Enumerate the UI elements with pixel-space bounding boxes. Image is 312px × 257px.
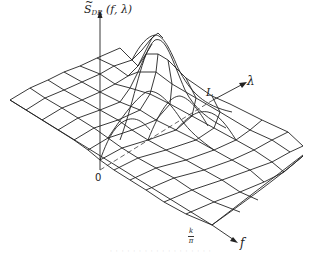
lambda-marker-l: L [206,86,213,99]
function-args: (f, λ) [106,3,132,16]
f-axis-label: f [240,236,244,250]
lambda-axis-label: λ [247,74,255,88]
surface-plot-svg [0,0,312,257]
surface-plot-figure: ~SDR (f, λ) λ L 0 f kπ · · · · · · · · ·… [0,0,312,257]
subscript-dr: DR [92,9,103,17]
tilde-accent: ~ [85,0,93,7]
surface-front-right-edge [212,155,303,225]
fraction-numerator: k [189,227,193,235]
f-axis [212,225,234,240]
page-bleed-through-text: · · · · · · · · · · · · · · · · · · [110,247,212,254]
vertical-axis-label: ~SDR (f, λ) [84,3,132,17]
origin-label: 0 [95,172,101,183]
lambda-axis [213,84,243,100]
fraction-denominator: π [189,237,194,245]
f-marker-k-over-pi: kπ [188,228,194,245]
